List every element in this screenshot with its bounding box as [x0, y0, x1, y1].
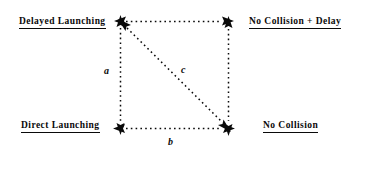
edge-label-a: a [104, 66, 109, 76]
node-label-delayed-launching: Delayed Launching [19, 16, 106, 29]
diagram-canvas: Delayed Launching No Collision + Delay D… [0, 0, 366, 188]
node-label-direct-launching: Direct Launching [21, 120, 100, 133]
node-label-no-collision: No Collision [263, 120, 318, 133]
edge-diagonal-line [127, 28, 222, 122]
edge-label-c: c [181, 65, 185, 75]
node-label-no-collision-delay: No Collision + Delay [249, 16, 341, 29]
edge-label-b: b [168, 137, 173, 147]
